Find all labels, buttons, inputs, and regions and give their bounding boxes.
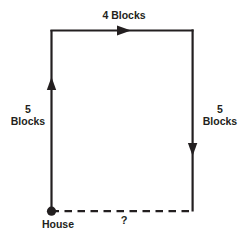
- right-length-value: 5: [217, 103, 223, 115]
- house-label: House: [28, 218, 88, 230]
- right-length-label: 5 Blocks: [192, 103, 248, 127]
- house-point-dot: [47, 207, 56, 216]
- down-arrow-icon: [188, 143, 197, 156]
- left-length-label: 5 Blocks: [0, 103, 56, 127]
- unknown-length-label: ?: [104, 214, 144, 226]
- right-arrow-icon: [117, 26, 131, 36]
- right-length-unit: Blocks: [192, 115, 248, 127]
- left-length-value: 5: [25, 103, 31, 115]
- top-length-label: 4 Blocks: [0, 9, 248, 21]
- left-length-unit: Blocks: [0, 115, 56, 127]
- up-arrow-icon: [47, 77, 56, 90]
